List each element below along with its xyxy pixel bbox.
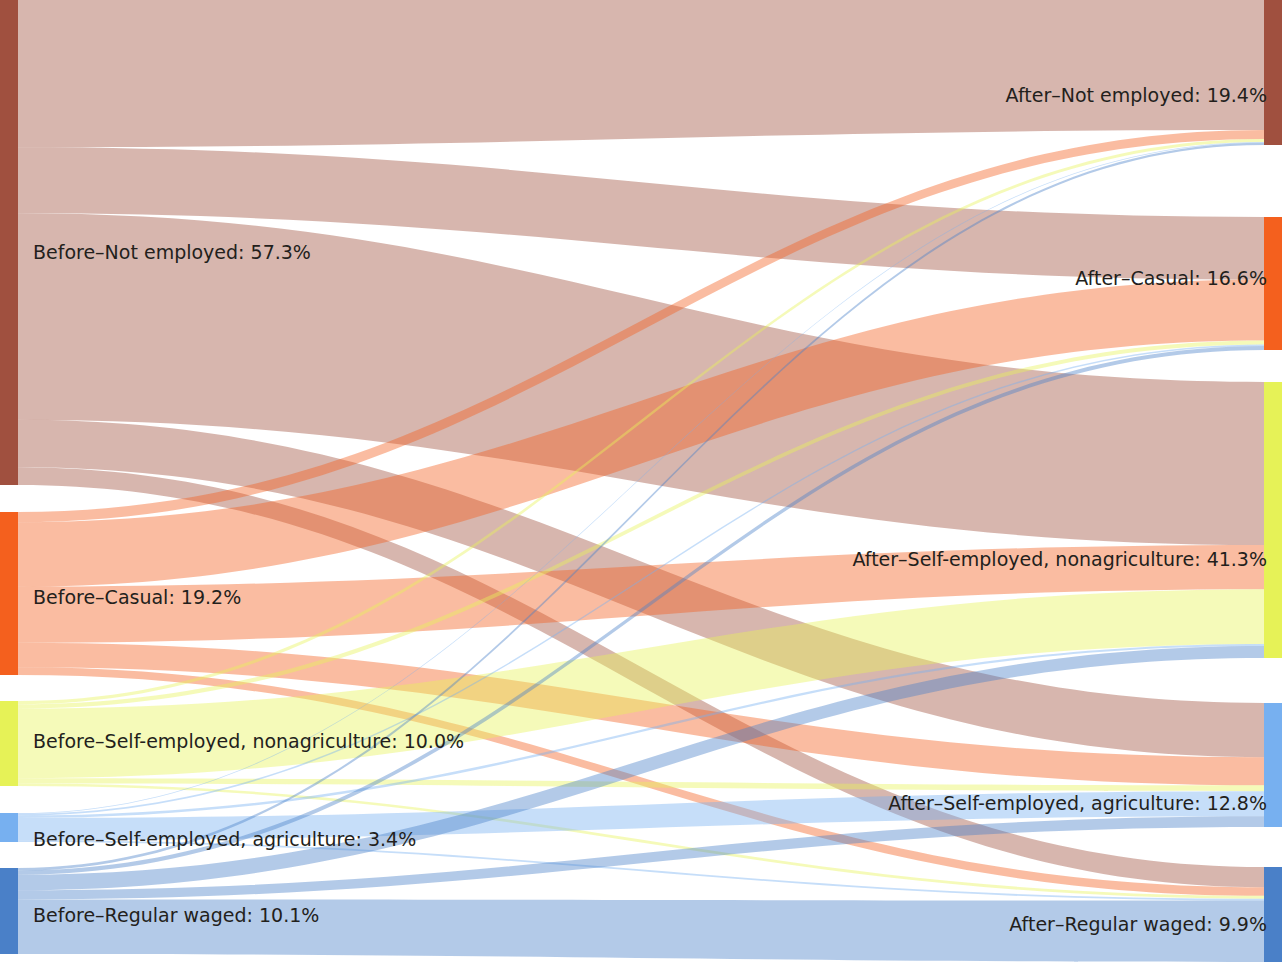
sankey-canvas: Before–Not employed: 57.3%Before–Casual:… — [0, 0, 1282, 962]
node-label-before-self-agri: Before–Self-employed, agriculture: 3.4% — [33, 828, 416, 850]
node-label-after-not-employed: After–Not employed: 19.4% — [1006, 84, 1267, 106]
sankey-node-before-self-agri[interactable] — [0, 813, 18, 842]
sankey-link[interactable] — [18, 0, 1264, 147]
sankey-links-group — [18, 0, 1264, 962]
node-label-before-casual: Before–Casual: 19.2% — [33, 586, 241, 608]
sankey-node-before-self-nonagri[interactable] — [0, 701, 18, 786]
sankey-node-before-casual[interactable] — [0, 512, 18, 675]
sankey-diagram: Before–Not employed: 57.3%Before–Casual:… — [0, 0, 1282, 962]
sankey-node-before-regular[interactable] — [0, 868, 18, 954]
sankey-node-before-not-employed[interactable] — [0, 0, 18, 485]
sankey-node-after-self-nonagri[interactable] — [1264, 382, 1282, 658]
node-label-before-self-nonagri: Before–Self-employed, nonagriculture: 10… — [33, 730, 464, 752]
node-label-after-self-nonagri: After–Self-employed, nonagriculture: 41.… — [852, 548, 1267, 570]
node-label-after-casual: After–Casual: 16.6% — [1075, 267, 1267, 289]
node-label-after-regular: After–Regular waged: 9.9% — [1009, 913, 1267, 935]
node-label-before-not-employed: Before–Not employed: 57.3% — [33, 241, 311, 263]
node-label-before-regular: Before–Regular waged: 10.1% — [33, 904, 319, 926]
node-label-after-self-agri: After–Self-employed, agriculture: 12.8% — [888, 792, 1267, 814]
sankey-node-after-not-employed[interactable] — [1264, 0, 1282, 145]
